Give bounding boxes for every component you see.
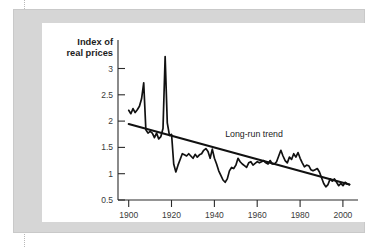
chart-canvas: Index of real prices 3 2.5 2 1.5 bbox=[42, 23, 366, 222]
real-price-index-series bbox=[129, 57, 350, 187]
y-axis-ticks bbox=[118, 69, 125, 201]
x-tick-label-2000: 2000 bbox=[333, 210, 352, 220]
x-tick-label-1920: 1920 bbox=[162, 210, 181, 220]
y-tick-label-1-5: 1.5 bbox=[101, 142, 113, 152]
y-tick-label-2: 2 bbox=[108, 116, 113, 126]
x-tick-label-1900: 1900 bbox=[119, 210, 138, 220]
x-axis-ticks bbox=[129, 200, 343, 207]
page-background: Index of real prices 3 2.5 2 1.5 bbox=[0, 0, 377, 247]
y-tick-label-1: 1 bbox=[108, 169, 113, 179]
y-tick-label-0-5: 0.5 bbox=[101, 195, 113, 205]
figure-frame: Index of real prices 3 2.5 2 1.5 bbox=[13, 9, 365, 233]
x-tick-label-1980: 1980 bbox=[291, 210, 310, 220]
price-index-line-chart: Index of real prices 3 2.5 2 1.5 bbox=[42, 23, 366, 222]
y-axis-title-line2: real prices bbox=[66, 48, 113, 58]
x-tick-label-1960: 1960 bbox=[248, 210, 267, 220]
x-tick-label-1940: 1940 bbox=[205, 210, 224, 220]
long-run-trend-label: Long-run trend bbox=[225, 129, 283, 139]
y-tick-label-3: 3 bbox=[108, 64, 113, 74]
y-tick-label-2-5: 2.5 bbox=[101, 90, 113, 100]
y-axis-title-line1: Index of bbox=[77, 37, 114, 47]
